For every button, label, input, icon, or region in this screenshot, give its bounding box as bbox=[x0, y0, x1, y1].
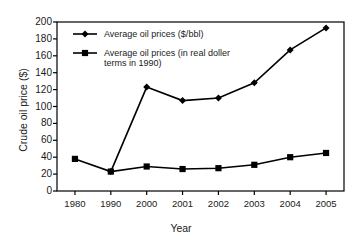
legend-label-2: terms in 1990) bbox=[104, 58, 162, 68]
x-tick-label: 2003 bbox=[234, 198, 274, 209]
y-tick-label: 180 bbox=[26, 34, 52, 44]
data-point-square bbox=[215, 165, 221, 171]
y-tick-label: 140 bbox=[26, 68, 52, 78]
y-tick-label: 40 bbox=[26, 152, 52, 162]
x-tick-label: 2005 bbox=[306, 198, 346, 209]
data-point-square bbox=[251, 162, 257, 168]
data-point-square bbox=[287, 154, 293, 160]
y-tick-label: 160 bbox=[26, 51, 52, 61]
data-point-square bbox=[108, 168, 114, 174]
chart-figure: Crude oil price ($) 02040608010012014016… bbox=[0, 0, 362, 243]
x-tick-label: 2004 bbox=[270, 198, 310, 209]
data-point-square bbox=[144, 163, 150, 169]
y-tick-label: 100 bbox=[26, 102, 52, 112]
x-tick-label: 1990 bbox=[91, 198, 131, 209]
x-tick-label: 1980 bbox=[55, 198, 95, 209]
data-point-square bbox=[82, 50, 88, 56]
y-tick-label: 20 bbox=[26, 169, 52, 179]
y-tick-label: 0 bbox=[26, 186, 52, 196]
y-tick-label: 120 bbox=[26, 85, 52, 95]
legend-label-2: Average oil prices (in real doller bbox=[104, 48, 230, 58]
legend-label-1: Average oil prices ($/bbl) bbox=[104, 29, 203, 39]
x-tick-label: 2002 bbox=[198, 198, 238, 209]
y-tick-label: 80 bbox=[26, 118, 52, 128]
x-tick-label: 2001 bbox=[163, 198, 203, 209]
data-point-square bbox=[323, 150, 329, 156]
x-axis-ticks bbox=[75, 191, 326, 195]
y-axis-tick-labels: 020406080100120140160180200 bbox=[22, 0, 52, 243]
x-axis-title: Year bbox=[0, 222, 362, 234]
x-tick-label: 2000 bbox=[127, 198, 167, 209]
data-point-square bbox=[179, 166, 185, 172]
y-tick-label: 200 bbox=[26, 17, 52, 27]
data-point-square bbox=[72, 156, 78, 162]
y-tick-label: 60 bbox=[26, 135, 52, 145]
